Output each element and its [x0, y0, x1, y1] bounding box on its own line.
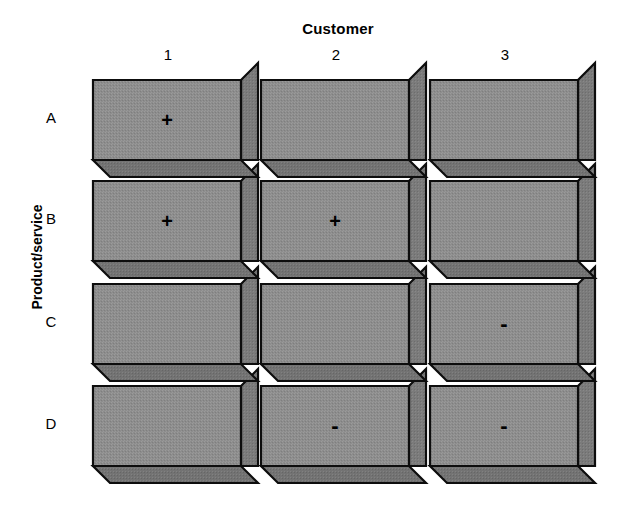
block-d-1[interactable]: [93, 369, 258, 483]
block-b-2[interactable]: [261, 164, 426, 278]
block-d-2[interactable]: [261, 369, 426, 483]
block-d-3-side-face[interactable]: [578, 369, 595, 466]
block-a-3[interactable]: [430, 63, 595, 177]
block-c-1-side-face[interactable]: [241, 267, 258, 364]
block-c-3-side-face[interactable]: [578, 267, 595, 364]
block-a-1-front-face[interactable]: [93, 80, 241, 160]
block-d-1-front-face[interactable]: [93, 386, 241, 466]
block-grid: [0, 0, 630, 528]
block-a-3-bottom-face[interactable]: [430, 160, 595, 177]
block-b-3-front-face[interactable]: [430, 181, 578, 261]
block-a-2[interactable]: [261, 63, 426, 177]
block-b-1[interactable]: [93, 164, 258, 278]
block-b-3-bottom-face[interactable]: [430, 261, 595, 278]
block-c-2-front-face[interactable]: [261, 284, 409, 364]
block-c-2-side-face[interactable]: [409, 267, 426, 364]
block-a-2-front-face[interactable]: [261, 80, 409, 160]
block-a-2-bottom-face[interactable]: [261, 160, 426, 177]
block-d-2-side-face[interactable]: [409, 369, 426, 466]
block-b-2-front-face[interactable]: [261, 181, 409, 261]
block-b-3-side-face[interactable]: [578, 164, 595, 261]
block-b-2-side-face[interactable]: [409, 164, 426, 261]
block-a-3-front-face[interactable]: [430, 80, 578, 160]
block-c-3-front-face[interactable]: [430, 284, 578, 364]
block-d-3-bottom-face[interactable]: [430, 466, 595, 483]
block-c-1[interactable]: [93, 267, 258, 381]
block-a-1-side-face[interactable]: [241, 63, 258, 160]
block-b-3[interactable]: [430, 164, 595, 278]
matrix-chart: Customer 1 2 3 Product/service A B C D -…: [0, 0, 630, 528]
block-d-2-bottom-face[interactable]: [261, 466, 426, 483]
block-a-1[interactable]: [93, 63, 258, 177]
block-d-1-side-face[interactable]: [241, 369, 258, 466]
block-d-2-front-face[interactable]: [261, 386, 409, 466]
block-a-2-side-face[interactable]: [409, 63, 426, 160]
block-c-1-bottom-face[interactable]: [93, 364, 258, 381]
block-d-3[interactable]: [430, 369, 595, 483]
block-c-3-bottom-face[interactable]: [430, 364, 595, 381]
block-c-1-front-face[interactable]: [93, 284, 241, 364]
block-b-2-bottom-face[interactable]: [261, 261, 426, 278]
block-d-1-bottom-face[interactable]: [93, 466, 258, 483]
block-b-1-bottom-face[interactable]: [93, 261, 258, 278]
block-b-1-front-face[interactable]: [93, 181, 241, 261]
block-b-1-side-face[interactable]: [241, 164, 258, 261]
block-a-1-bottom-face[interactable]: [93, 160, 258, 177]
block-c-3[interactable]: [430, 267, 595, 381]
block-c-2[interactable]: [261, 267, 426, 381]
block-d-3-front-face[interactable]: [430, 386, 578, 466]
block-a-3-side-face[interactable]: [578, 63, 595, 160]
block-c-2-bottom-face[interactable]: [261, 364, 426, 381]
